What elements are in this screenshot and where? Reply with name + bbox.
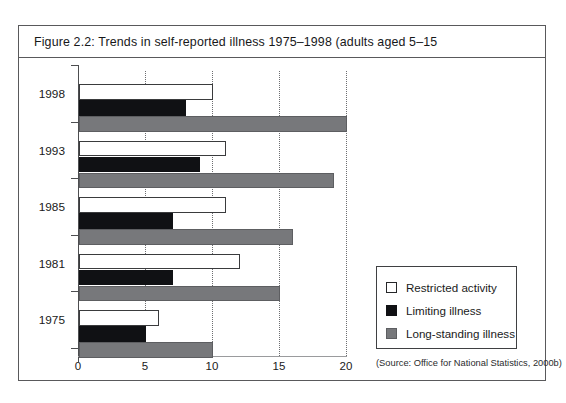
x-tick-label-0: 0: [75, 360, 81, 372]
legend-swatch-long-standing-illness: [386, 328, 397, 339]
legend-swatch-limiting-illness: [386, 305, 397, 316]
legend-item-restricted-activity: Restricted activity: [386, 276, 516, 298]
bar-1998-restricted-activity: [79, 84, 213, 100]
gridline-x-15: [279, 71, 280, 356]
y-tick-label-1975: 1975: [39, 313, 65, 327]
chart-axes-area: [78, 71, 346, 356]
y-tick-label-1998: 1998: [39, 87, 65, 101]
y-tick-label-1985: 1985: [39, 200, 65, 214]
y-axis-tick-1981: [71, 235, 79, 236]
figure-caption: Figure 2.2: Trends in self-reported illn…: [19, 35, 437, 49]
figure-caption-bar: Figure 2.2: Trends in self-reported illn…: [19, 26, 545, 58]
figure-frame: Figure 2.2: Trends in self-reported illn…: [18, 25, 546, 381]
x-tick-label-5: 5: [142, 360, 148, 372]
bar-1985-limiting-illness: [79, 213, 173, 229]
gridline-x-20: [346, 71, 347, 356]
bar-1985-long-standing-illness: [79, 229, 293, 245]
bar-1975-long-standing-illness: [79, 342, 213, 358]
legend-swatch-restricted-activity: [386, 282, 397, 293]
bar-1998-limiting-illness: [79, 100, 186, 116]
source-note: (Source: Office for National Statistics,…: [376, 358, 562, 368]
legend-label-restricted-activity: Restricted activity: [406, 281, 497, 294]
y-tick-label-1993: 1993: [39, 144, 65, 158]
y-tick-label-1981: 1981: [39, 257, 65, 271]
legend-item-limiting-illness: Limiting illness: [386, 299, 516, 321]
chart-plot-region: 19981993198519811975 05101520 Restricted…: [19, 58, 545, 381]
legend-label-long-standing-illness: Long-standing illness: [406, 327, 515, 340]
legend-label-limiting-illness: Limiting illness: [406, 304, 481, 317]
bar-1981-restricted-activity: [79, 254, 240, 270]
bar-1993-limiting-illness: [79, 157, 200, 173]
bar-1998-long-standing-illness: [79, 116, 347, 132]
bar-1981-long-standing-illness: [79, 286, 280, 302]
bar-1975-restricted-activity: [79, 310, 159, 326]
bar-1981-limiting-illness: [79, 270, 173, 286]
x-tick-label-10: 10: [206, 360, 219, 372]
gridline-x-10: [212, 71, 213, 356]
x-tick-label-15: 15: [273, 360, 286, 372]
legend-item-long-standing-illness: Long-standing illness: [386, 322, 516, 344]
x-tick-label-20: 20: [340, 360, 353, 372]
y-axis-tick-1998: [71, 65, 79, 66]
bar-1993-long-standing-illness: [79, 173, 334, 189]
y-axis-tick-end: [71, 348, 79, 349]
y-axis-label-column: 19981993198519811975: [19, 58, 65, 381]
y-axis-tick-1985: [71, 178, 79, 179]
y-axis-tick-1993: [71, 122, 79, 123]
bar-1985-restricted-activity: [79, 197, 226, 213]
y-axis-tick-1975: [71, 291, 79, 292]
bar-1975-limiting-illness: [79, 326, 146, 342]
bar-1993-restricted-activity: [79, 141, 226, 157]
chart-legend: Restricted activity Limiting illness Lon…: [376, 266, 517, 349]
